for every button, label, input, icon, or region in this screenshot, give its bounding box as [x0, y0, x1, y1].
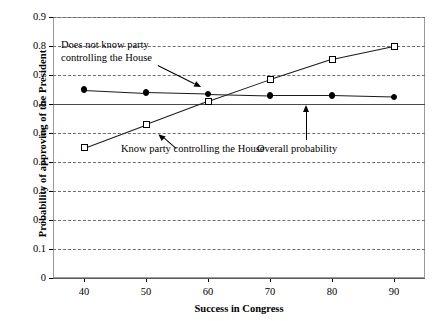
gridline — [53, 220, 425, 221]
data-point-marker — [329, 92, 336, 99]
y-tick-label: 0.2 — [12, 215, 46, 225]
y-tick-label: 0.9 — [12, 12, 46, 22]
y-tick-label: 0.1 — [12, 244, 46, 254]
gridline — [53, 162, 425, 163]
data-point-marker — [267, 76, 274, 83]
gridline — [53, 191, 425, 192]
arrow-overall-probability-line — [306, 112, 307, 140]
series-line-segment — [270, 95, 332, 96]
x-tick-label: 80 — [317, 287, 347, 297]
x-tick-label: 60 — [193, 287, 223, 297]
y-tick-label: 0.6 — [12, 99, 46, 109]
x-tick-label: 50 — [131, 287, 161, 297]
gridline — [53, 249, 425, 250]
data-point-marker — [391, 43, 398, 50]
gridline — [53, 133, 425, 134]
y-tick-label: 0.4 — [12, 157, 46, 167]
x-axis-title: Success in Congress — [53, 303, 425, 314]
data-point-marker — [267, 92, 274, 99]
x-tick-label: 40 — [69, 287, 99, 297]
data-point-marker — [81, 144, 88, 151]
annotation-overall-probability: Overall probability — [257, 143, 337, 156]
x-tick-label: 90 — [379, 287, 409, 297]
y-tick-label: 0.8 — [12, 41, 46, 51]
data-point-marker — [81, 86, 88, 93]
chart-figure: Probability of approving of the Presiden… — [0, 0, 442, 321]
data-point-marker — [205, 98, 212, 105]
y-tick-label: 0 — [12, 273, 46, 283]
y-tick-label: 0.7 — [12, 70, 46, 80]
y-axis-title: Probability of approving of the Presiden… — [37, 14, 48, 274]
reference-line-overall — [53, 104, 425, 105]
plot-area: Does not know partycontrolling the House… — [53, 17, 425, 278]
x-tick-label: 70 — [255, 287, 285, 297]
data-point-marker — [143, 89, 150, 96]
x-axis-line — [53, 278, 425, 279]
arrow-overall-probability-head — [303, 105, 309, 112]
data-point-marker — [329, 56, 336, 63]
data-point-marker — [143, 121, 150, 128]
gridline — [53, 75, 425, 76]
gridline — [53, 17, 425, 18]
annotation-does-not-know-line1: Does not know party — [61, 39, 149, 52]
y-tick-label: 0.3 — [12, 186, 46, 196]
y-tick-label: 0.5 — [12, 128, 46, 138]
annotation-does-not-know-line2: controlling the House — [61, 52, 152, 65]
annotation-know-party: Know party controlling the House — [121, 143, 264, 156]
